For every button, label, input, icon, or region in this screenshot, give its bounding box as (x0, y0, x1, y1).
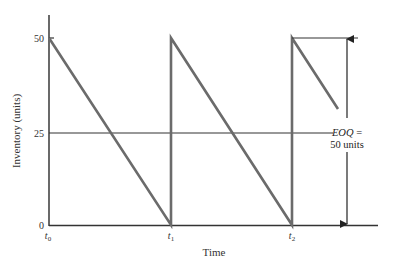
inventory-sawtooth-line (49, 38, 338, 225)
eoq-inventory-chart: 50 25 0 Inventory (units) t0 t1 t2 Time … (0, 0, 395, 269)
y-axis-title: Inventory (units) (10, 94, 23, 169)
x-tick-label-t0: t0 (45, 230, 52, 243)
y-tick-label-0: 0 (39, 220, 44, 231)
y-tick-label-50: 50 (34, 33, 44, 44)
eoq-annotation-line1: EOQ = (331, 127, 362, 138)
eoq-annotation-line2: 50 units (330, 139, 364, 150)
x-tick-label-t1: t1 (168, 230, 175, 243)
y-tick-label-25: 25 (34, 128, 44, 139)
x-axis-title: Time (203, 246, 226, 258)
x-tick-label-t2: t2 (289, 230, 296, 243)
